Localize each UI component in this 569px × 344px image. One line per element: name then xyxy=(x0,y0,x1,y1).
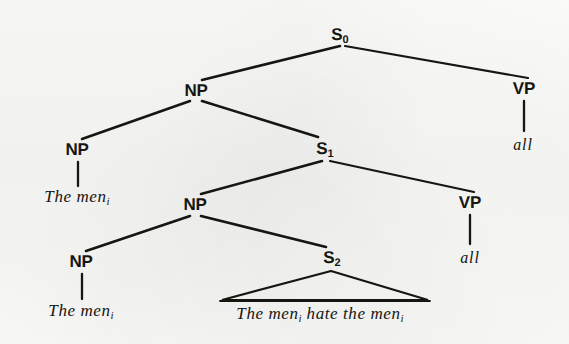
node-np-top-label: NP xyxy=(184,81,207,100)
node-vp-top: VP xyxy=(513,79,535,99)
edge-s0-to-np xyxy=(202,46,340,80)
edge-np-to-np-2 xyxy=(86,216,190,251)
node-np-mid-label: NP xyxy=(183,195,206,214)
node-s1-label: S xyxy=(316,139,327,158)
terminal-the-men-upper: The meni xyxy=(44,187,109,207)
node-s2: S2 xyxy=(323,248,340,269)
node-np-mid-left: NP xyxy=(65,140,88,160)
node-s2-subscript: 2 xyxy=(335,258,341,270)
syntax-tree-diagram: S0 NP VP NP S1 NP VP NP S2 The meni all … xyxy=(0,0,569,344)
terminal-the-men-lower: The meni xyxy=(48,301,113,321)
node-vp-mid: VP xyxy=(459,193,481,213)
edge-s0-to-vp xyxy=(345,46,528,78)
node-np-low-left: NP xyxy=(69,252,92,272)
terminal-all-lower: all xyxy=(460,249,480,267)
node-s0: S0 xyxy=(331,25,348,46)
edge-s1-to-np xyxy=(201,161,322,194)
terminal-all-upper-text: all xyxy=(513,136,533,153)
tree-edges-layer xyxy=(0,0,569,344)
edge-s1-to-vp xyxy=(330,161,474,192)
node-s1: S1 xyxy=(316,139,333,160)
terminal-sentence-text-1: The men xyxy=(236,304,298,323)
node-s0-label: S xyxy=(331,25,342,44)
node-s2-label: S xyxy=(323,248,334,267)
terminal-the-men-lower-text: The men xyxy=(48,301,110,320)
terminal-all-upper: all xyxy=(513,136,533,154)
terminal-the-men-lower-subscript: i xyxy=(111,309,114,321)
terminal-sentence-subscript-2: i xyxy=(401,312,404,324)
terminal-the-men-upper-text: The men xyxy=(44,187,106,206)
terminal-all-lower-text: all xyxy=(460,249,480,266)
edge-np-to-s1 xyxy=(202,101,318,137)
node-s1-subscript: 1 xyxy=(328,149,334,161)
edge-np-to-np xyxy=(82,101,190,139)
terminal-the-men-upper-subscript: i xyxy=(107,195,110,207)
node-s0-subscript: 0 xyxy=(343,35,349,47)
node-np-top: NP xyxy=(184,81,207,101)
s2-yield-triangle xyxy=(222,271,428,300)
terminal-sentence-yield: The meni hate the meni xyxy=(236,304,403,324)
node-np-mid-left-label: NP xyxy=(65,140,88,159)
node-vp-top-label: VP xyxy=(513,79,535,98)
node-vp-mid-label: VP xyxy=(459,193,481,212)
node-np-low-left-label: NP xyxy=(69,252,92,271)
node-np-mid: NP xyxy=(183,195,206,215)
edge-np-to-s2 xyxy=(201,216,326,247)
terminal-sentence-text-2: hate the men xyxy=(302,304,401,323)
